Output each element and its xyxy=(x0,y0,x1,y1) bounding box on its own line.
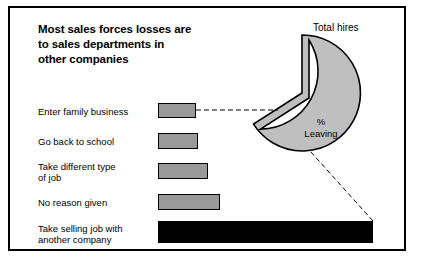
bar-go-back-to-school xyxy=(158,133,198,149)
bar-enter-family-business xyxy=(158,103,196,118)
bar-label-text-2: of job xyxy=(38,172,61,183)
bar-label-text: No reason given xyxy=(38,197,107,208)
bar-label-text: Take selling job with xyxy=(38,223,123,234)
chart-title-line-1: Most sales forces losses are xyxy=(38,23,191,35)
pie-chart xyxy=(225,28,400,163)
bar-no-reason-given xyxy=(158,194,220,210)
bar-take-different-type-of-job xyxy=(158,163,208,179)
chart-title-line-2: to sales departments in xyxy=(38,38,164,50)
pie-label-leaving-pct: % xyxy=(317,116,325,127)
bar-label-text: Go back to school xyxy=(38,136,114,147)
bar-label-enter-family-business: Enter family business xyxy=(38,106,158,117)
bar-label-go-back-to-school: Go back to school xyxy=(38,136,158,147)
chart-title-line-3: other companies xyxy=(38,53,129,65)
bar-label-take-different-type-of-job: Take different type of job xyxy=(38,161,158,183)
bar-label-no-reason-given: No reason given xyxy=(38,197,158,208)
bar-label-text-2: another company xyxy=(38,234,111,245)
bar-label-take-selling-job-with-another-company: Take selling job with another company xyxy=(38,223,160,245)
pie-chart-svg xyxy=(225,28,400,163)
bar-label-text: Enter family business xyxy=(38,106,128,117)
bar-label-text: Take different type xyxy=(38,161,115,172)
pie-label-leaving-word: Leaving xyxy=(304,128,337,139)
pie-label-leaving: % Leaving xyxy=(298,116,344,140)
chart-figure-frame: Most sales forces losses are to sales de… xyxy=(8,6,406,251)
bar-take-selling-job-with-another-company xyxy=(158,221,373,243)
